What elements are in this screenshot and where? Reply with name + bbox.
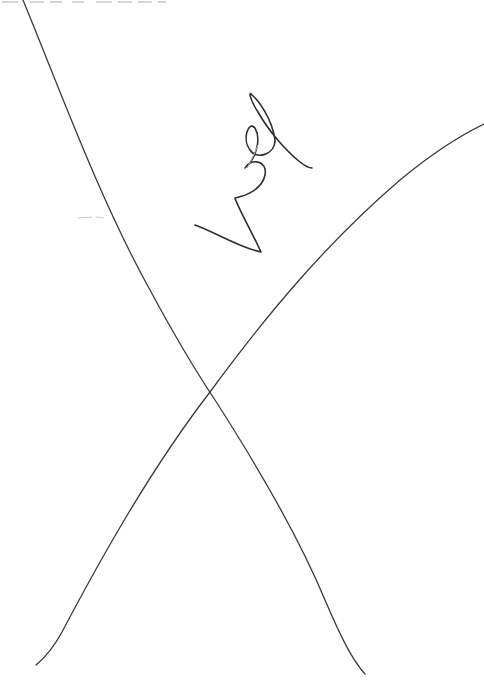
strike-line-descending xyxy=(23,0,365,674)
signature-initials xyxy=(195,94,312,252)
document-page xyxy=(0,0,484,698)
faint-smudge-mark xyxy=(78,217,104,218)
pen-marks xyxy=(0,0,484,698)
strike-line-ascending xyxy=(36,124,484,665)
